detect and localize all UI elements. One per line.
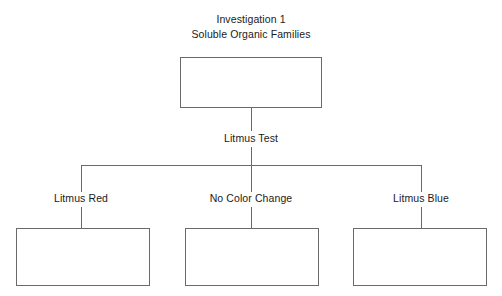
- branch-line-top-litmus-red: [81, 165, 82, 192]
- connector-decision-to-bus: [251, 147, 252, 166]
- branch-line-top-litmus-blue: [421, 165, 422, 192]
- branch-line-bottom-litmus-red: [81, 207, 82, 228]
- title-line-1: Investigation 1: [0, 12, 502, 27]
- branch-line-bottom-litmus-blue: [421, 207, 422, 228]
- branch-label-litmus-blue: Litmus Blue: [393, 192, 449, 205]
- root-box[interactable]: [180, 57, 322, 108]
- branch-label-no-color-change: No Color Change: [210, 192, 293, 205]
- branch-line-bottom-no-color-change: [251, 207, 252, 228]
- diagram-title: Investigation 1 Soluble Organic Families: [0, 12, 502, 42]
- result-box-litmus-blue[interactable]: [353, 228, 487, 286]
- flowchart-diagram: Investigation 1 Soluble Organic Families…: [0, 0, 502, 296]
- branch-label-litmus-red: Litmus Red: [54, 192, 108, 205]
- branch-line-top-no-color-change: [251, 165, 252, 192]
- connector-root-to-decision: [251, 108, 252, 131]
- result-box-no-color-change[interactable]: [185, 228, 319, 286]
- decision-label: Litmus Test: [224, 132, 278, 145]
- title-line-2: Soluble Organic Families: [0, 27, 502, 42]
- result-box-litmus-red[interactable]: [16, 228, 150, 286]
